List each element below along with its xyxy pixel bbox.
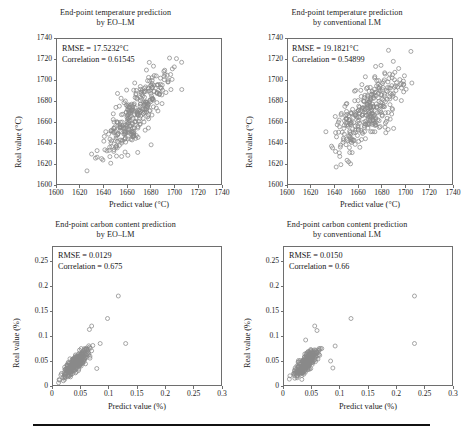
y-tick-label: 1660 (251, 117, 283, 126)
y-tick-mark (50, 286, 53, 287)
y-tick-label: 0.15 (247, 306, 279, 315)
plot-area-bottom-right: RMSE = 0.0150 Correlation = 0.66 (283, 246, 453, 386)
y-tick-mark (285, 38, 288, 39)
panel-annotation-bottom-left: RMSE = 0.0129 Correlation = 0.675 (58, 250, 122, 272)
y-tick-label: 0.25 (247, 256, 279, 265)
y-tick-label: 1620 (20, 159, 52, 168)
y-axis-label: Real value (°C) (245, 116, 254, 168)
panel-title-bottom-right: End-point carbon content prediction by c… (231, 220, 463, 241)
panel-title-line2: by conventional LM (231, 18, 463, 28)
x-tick-label: 0.3 (435, 389, 463, 398)
x-axis-label: Predict value (%) (52, 402, 222, 411)
y-tick-mark (281, 286, 284, 287)
panel-title-line2: by conventional LM (231, 230, 463, 240)
figure-panel-grid: End-point temperature prediction by EO–L… (0, 0, 463, 439)
y-tick-mark (285, 122, 288, 123)
y-tick-label: 1680 (251, 96, 283, 105)
panel-title-top-right: End-point temperature prediction by conv… (231, 8, 463, 29)
panel-top-right: End-point temperature prediction by conv… (231, 8, 463, 215)
y-axis-label: Real value (%) (243, 318, 252, 368)
y-tick-mark (54, 59, 57, 60)
panel-title-line1: End-point carbon content prediction (0, 220, 231, 230)
panel-annotation-bottom-right: RMSE = 0.0150 Correlation = 0.66 (289, 250, 349, 272)
panel-title-line2: by EO–LM (0, 18, 231, 28)
rmse-label: RMSE = 0.0129 (58, 250, 122, 261)
y-tick-label: 0.15 (16, 306, 48, 315)
correlation-label: Correlation = 0.54899 (292, 54, 365, 65)
rmse-label: RMSE = 19.1821°C (292, 43, 365, 54)
y-tick-mark (50, 336, 53, 337)
rmse-label: RMSE = 0.0150 (289, 250, 349, 261)
y-tick-mark (54, 164, 57, 165)
y-tick-label: 1680 (20, 96, 52, 105)
y-tick-label: 1700 (20, 75, 52, 84)
y-tick-mark (54, 101, 57, 102)
y-tick-label: 1740 (20, 33, 52, 42)
y-tick-mark (281, 361, 284, 362)
panel-bottom-left: End-point carbon content prediction by E… (0, 220, 231, 420)
y-tick-label: 1720 (251, 54, 283, 63)
panel-title-top-left: End-point temperature prediction by EO–L… (0, 8, 231, 29)
y-tick-mark (285, 143, 288, 144)
y-tick-label: 1720 (20, 54, 52, 63)
y-tick-mark (281, 311, 284, 312)
y-tick-label: 1640 (251, 138, 283, 147)
y-tick-mark (54, 143, 57, 144)
y-tick-mark (285, 80, 288, 81)
y-tick-label: 1660 (20, 117, 52, 126)
panel-annotation-top-right: RMSE = 19.1821°C Correlation = 0.54899 (292, 43, 365, 65)
correlation-label: Correlation = 0.61545 (62, 54, 135, 65)
panel-title-bottom-left: End-point carbon content prediction by E… (0, 220, 231, 241)
y-tick-label: 0.25 (16, 256, 48, 265)
y-tick-mark (50, 261, 53, 262)
y-tick-label: 1640 (20, 138, 52, 147)
panel-title-line1: End-point temperature prediction (0, 8, 231, 18)
caption-text-clipped (33, 431, 430, 439)
rmse-label: RMSE = 17.5232°C (62, 43, 135, 54)
correlation-label: Correlation = 0.66 (289, 261, 349, 272)
y-axis-label: Real value (°C) (14, 116, 23, 168)
x-axis-label: Predict value (°C) (56, 200, 222, 209)
x-tick-label: 1740 (435, 188, 463, 197)
panel-bottom-right: End-point carbon content prediction by c… (231, 220, 463, 420)
plot-area-top-right: RMSE = 19.1821°C Correlation = 0.54899 (287, 38, 453, 185)
y-tick-mark (54, 122, 57, 123)
y-tick-mark (54, 38, 57, 39)
panel-title-line2: by EO–LM (0, 230, 231, 240)
y-tick-label: 0.2 (247, 281, 279, 290)
panel-annotation-top-left: RMSE = 17.5232°C Correlation = 0.61545 (62, 43, 135, 65)
y-tick-label: 1620 (251, 159, 283, 168)
y-axis-label: Real value (%) (12, 318, 21, 368)
panel-top-left: End-point temperature prediction by EO–L… (0, 8, 231, 215)
y-tick-mark (50, 311, 53, 312)
y-tick-mark (50, 361, 53, 362)
caption-divider-rule (33, 424, 430, 426)
y-tick-mark (281, 261, 284, 262)
y-tick-label: 1740 (251, 33, 283, 42)
y-tick-mark (54, 80, 57, 81)
y-tick-label: 0.2 (16, 281, 48, 290)
x-axis-label: Predict value (%) (283, 402, 453, 411)
x-axis-label: Predict value (°C) (287, 200, 453, 209)
y-tick-label: 1700 (251, 75, 283, 84)
y-tick-mark (285, 59, 288, 60)
plot-area-bottom-left: RMSE = 0.0129 Correlation = 0.675 (52, 246, 222, 386)
correlation-label: Correlation = 0.675 (58, 261, 122, 272)
y-tick-mark (285, 164, 288, 165)
panel-title-line1: End-point temperature prediction (231, 8, 463, 18)
plot-area-top-left: RMSE = 17.5232°C Correlation = 0.61545 (56, 38, 222, 185)
y-tick-mark (281, 336, 284, 337)
y-tick-mark (285, 101, 288, 102)
panel-title-line1: End-point carbon content prediction (231, 220, 463, 230)
